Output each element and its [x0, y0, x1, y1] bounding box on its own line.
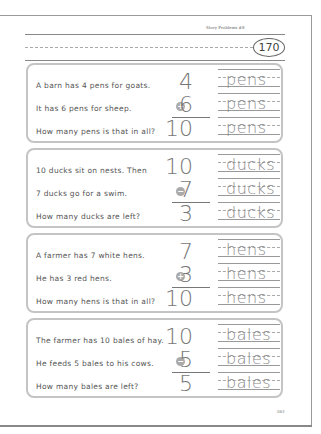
unit-writing-line: ducks — [218, 202, 280, 220]
unit-label: hens — [226, 266, 266, 282]
unit-label: bales — [226, 327, 271, 343]
header-rule — [25, 34, 285, 35]
sentence: How many hens is that in all? — [36, 297, 155, 306]
unit-writing-line: hens — [218, 239, 280, 257]
unit-writing-line: bales — [218, 372, 280, 390]
problem-box: 10 ducks sit on nests. Then 7 ducks go f… — [26, 148, 283, 228]
second-number: 7 — [153, 179, 193, 201]
unit-label: bales — [226, 351, 271, 367]
answer-number: 5 — [153, 373, 193, 395]
sentence: A barn has 4 pens for goats. — [36, 81, 150, 90]
answer-number: 10 — [153, 118, 193, 140]
answer-number: 3 — [153, 203, 193, 225]
unit-label: pens — [226, 72, 266, 88]
unit-label: pens — [226, 96, 266, 112]
sentence: The farmer has 10 bales of hay. — [36, 336, 164, 345]
page-number: 063 — [277, 409, 285, 414]
unit-label: hens — [226, 242, 266, 258]
name-writing-line — [25, 47, 253, 48]
worksheet-title: Story Problems #8 — [206, 25, 244, 30]
sentence: A farmer has 7 white hens. — [36, 251, 145, 260]
second-number: 3 — [153, 264, 193, 286]
unit-writing-line: pens — [218, 69, 280, 87]
sentence: He has 3 red hens. — [36, 274, 112, 283]
page-border — [0, 425, 312, 427]
page-border — [0, 15, 312, 16]
unit-writing-line: bales — [218, 348, 280, 366]
unit-label: ducks — [226, 181, 275, 197]
sentence: How many bales are left? — [36, 382, 138, 391]
sentence: How many pens is that in all? — [36, 127, 155, 136]
unit-writing-line: hens — [218, 263, 280, 281]
header-rule — [25, 60, 285, 61]
unit-label: ducks — [226, 157, 275, 173]
problem-box: The farmer has 10 bales of hay. He feeds… — [26, 318, 283, 398]
unit-label: bales — [226, 375, 271, 391]
sentence: 10 ducks sit on nests. Then — [36, 166, 147, 175]
unit-label: pens — [226, 120, 266, 136]
first-number: 10 — [153, 156, 193, 178]
unit-writing-line: ducks — [218, 154, 280, 172]
sentence: He feeds 5 bales to his cows. — [36, 359, 154, 368]
problem-box: A farmer has 7 white hens. He has 3 red … — [26, 233, 283, 313]
unit-label: ducks — [226, 205, 275, 221]
lesson-number-badge: 170 — [253, 38, 285, 57]
sentence: How many ducks are left? — [36, 212, 140, 221]
page-border — [311, 15, 312, 426]
first-number: 7 — [153, 241, 193, 263]
first-number: 4 — [153, 71, 193, 93]
first-number: 10 — [153, 326, 193, 348]
unit-writing-line: hens — [218, 287, 280, 305]
unit-label: hens — [226, 290, 266, 306]
unit-writing-line: bales — [218, 324, 280, 342]
problem-box: A barn has 4 pens for goats. It has 6 pe… — [26, 63, 283, 143]
unit-writing-line: pens — [218, 93, 280, 111]
sentence: 7 ducks go for a swim. — [36, 189, 127, 198]
unit-writing-line: pens — [218, 117, 280, 135]
second-number: 5 — [153, 349, 193, 371]
unit-writing-line: ducks — [218, 178, 280, 196]
second-number: 6 — [153, 94, 193, 116]
answer-number: 10 — [153, 288, 193, 310]
sentence: It has 6 pens for sheep. — [36, 104, 132, 113]
